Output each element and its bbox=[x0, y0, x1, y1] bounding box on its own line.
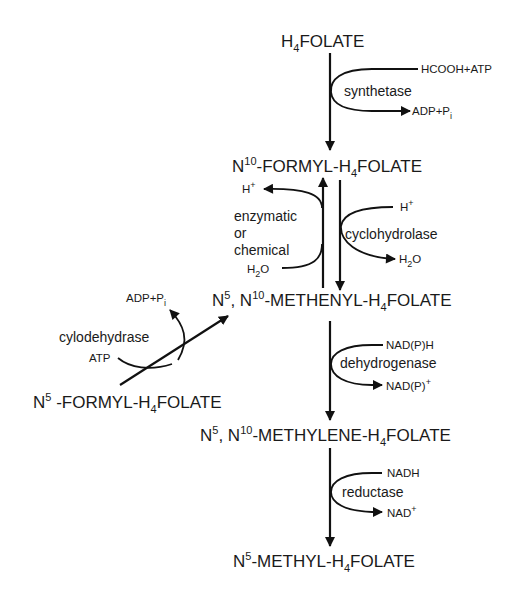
cylodehydrase-input: ATP bbox=[89, 352, 111, 364]
synthetase-output: ADP+Pi bbox=[412, 105, 452, 121]
dehydrogenase-input: NAD(P)H bbox=[386, 339, 434, 351]
cylodehydrase-output: ADP+Pi bbox=[126, 292, 166, 308]
reverse-output-curve bbox=[264, 189, 322, 208]
compound-n5-n10-methylene-h4folate: N5, N10-METHYLENE-H4FOLATE bbox=[200, 424, 451, 448]
reverse-enzyme-label-line2: or bbox=[234, 225, 247, 241]
compound-n5-methyl-h4folate: N5-METHYL-H4FOLATE bbox=[233, 550, 415, 574]
compound-h4folate: H4FOLATE bbox=[281, 32, 364, 54]
reductase-input: NADH bbox=[387, 467, 420, 479]
reverse-input: H2O bbox=[247, 263, 269, 279]
compound-n5-n10-methenyl-h4folate: N5, N10-METHENYL-H4FOLATE bbox=[212, 289, 452, 313]
dehydrogenase-output: NAD(P)+ bbox=[386, 377, 431, 392]
folate-pathway-diagram: H4FOLATE N10-FORMYL-H4FOLATE N5, N10-MET… bbox=[0, 0, 519, 597]
reverse-enzyme-label-line3: chemical bbox=[234, 242, 289, 258]
synthetase-enzyme-label: synthetase bbox=[344, 83, 412, 99]
reductase-output: NAD+ bbox=[387, 504, 417, 519]
reverse-output: H+ bbox=[242, 180, 256, 195]
cylodehydrase-enzyme-label: cylodehydrase bbox=[59, 329, 149, 345]
cyclohydrolase-input: H+ bbox=[400, 198, 414, 213]
reverse-enzyme-label-line1: enzymatic bbox=[234, 208, 297, 224]
cylodehydrase-input-curve bbox=[118, 358, 172, 368]
dehydrogenase-enzyme-label: dehydrogenase bbox=[340, 355, 437, 371]
reductase-enzyme-label: reductase bbox=[342, 484, 404, 500]
cyclohydrolase-output: H2O bbox=[399, 253, 421, 269]
compound-n10-formyl-h4folate: N10-FORMYL-H4FOLATE bbox=[232, 155, 422, 179]
arrow-n5-formyl-to-methenyl bbox=[120, 316, 228, 385]
compound-n5-formyl-h4folate: N5 -FORMYL-H4FOLATE bbox=[33, 391, 222, 415]
cyclohydrolase-enzyme-label: cyclohydrolase bbox=[345, 226, 438, 242]
synthetase-input: HCOOH+ATP bbox=[421, 63, 492, 75]
